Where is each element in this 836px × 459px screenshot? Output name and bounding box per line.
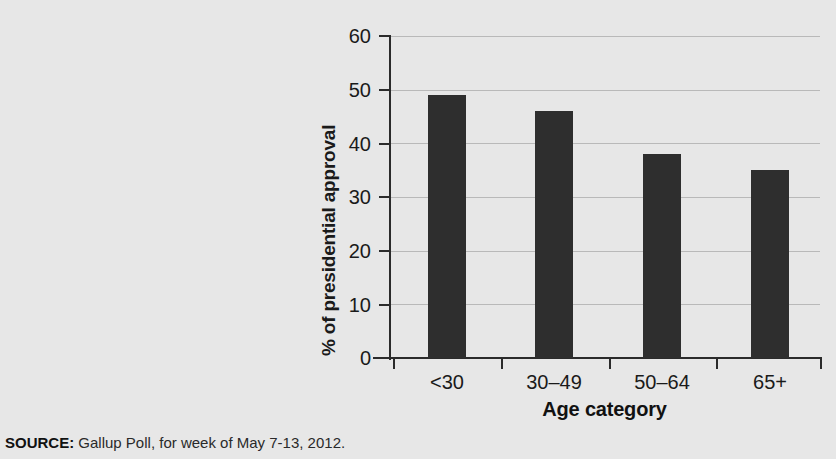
y-tick-60: [379, 35, 390, 37]
y-tick-label-30: 30: [331, 187, 371, 207]
source-label: SOURCE:: [5, 434, 74, 451]
x-tick-4: [820, 358, 822, 369]
y-tick-label-40: 40: [331, 134, 371, 154]
y-tick-20: [379, 250, 390, 252]
bar-30-49: [535, 111, 573, 358]
x-tick-label-50-64: 50–64: [622, 371, 702, 393]
y-tick-40: [379, 143, 390, 145]
y-tick-30: [379, 196, 390, 198]
gridline-60: [389, 36, 820, 37]
chart-figure: % of presidential approval 60 50 40 30 2…: [0, 0, 836, 459]
x-tick-0: [393, 358, 395, 369]
x-tick-label-lt30: <30: [407, 371, 487, 393]
y-tick-label-60: 60: [331, 26, 371, 46]
source-note: SOURCE: Gallup Poll, for week of May 7-1…: [5, 434, 345, 452]
y-tick-10: [379, 304, 390, 306]
source-text: Gallup Poll, for week of May 7-13, 2012.: [74, 434, 345, 451]
bar-65plus: [751, 170, 789, 358]
bar-50-64: [643, 154, 681, 358]
x-tick-1: [501, 358, 503, 369]
y-tick-label-0: 0: [331, 348, 371, 368]
gridline-50: [389, 90, 820, 91]
y-tick-label-group: 60 50 40 30 20 10 0: [329, 0, 371, 459]
x-tick-label-65plus: 65+: [730, 371, 810, 393]
bar-lt30: [428, 95, 466, 358]
y-tick-50: [379, 89, 390, 91]
y-tick-label-50: 50: [331, 80, 371, 100]
x-axis-title: Age category: [389, 398, 820, 421]
x-tick-3: [716, 358, 718, 369]
x-tick-label-30-49: 30–49: [514, 371, 594, 393]
y-tick-label-20: 20: [331, 241, 371, 261]
x-tick-2: [609, 358, 611, 369]
y-tick-0: [379, 357, 390, 359]
y-tick-label-10: 10: [331, 295, 371, 315]
